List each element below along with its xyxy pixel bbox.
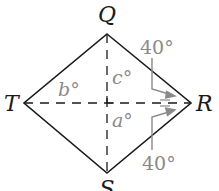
angle-label-c: c° [112,66,132,88]
angle-label-a: a° [112,109,133,131]
vertex-label-S: S [99,176,114,191]
vertex-label-Q: Q [98,2,116,27]
right-angle-mark [107,96,114,103]
given-angle-top: 40° [140,36,174,58]
vertex-label-R: R [195,91,213,116]
arrow-top-40 [152,58,175,98]
vertex-label-T: T [4,91,21,116]
rhombus-diagram: Q R S T c° b° a° 40° 40° [0,0,219,191]
given-angle-bottom: 40° [142,152,176,174]
angle-label-b: b° [58,78,80,100]
arrow-bottom-40 [152,108,175,150]
